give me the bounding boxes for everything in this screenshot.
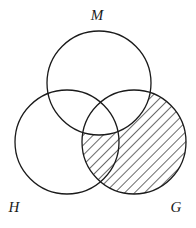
shaded-region-g-minus-m	[0, 0, 196, 228]
set-g-label: G	[171, 199, 182, 215]
venn-diagram: M H G	[0, 0, 196, 228]
set-h-label: H	[8, 199, 21, 215]
set-m-label: M	[90, 7, 105, 23]
